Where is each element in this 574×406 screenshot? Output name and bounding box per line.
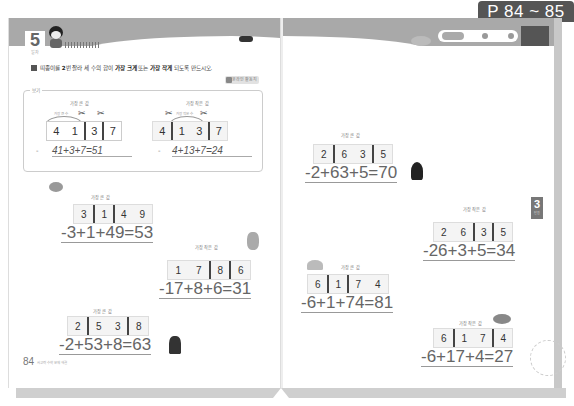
example-smallest-equation: 4+13+7=24 [172, 145, 252, 157]
scissors-icon: ✂ [200, 109, 208, 118]
problem-title: 가장 작은 값 [459, 320, 482, 326]
answer-text: -2+63+5=70 [305, 164, 397, 181]
number-strip: 2 6 3 5 [313, 144, 393, 164]
number-strip: 6 1 7 4 [433, 328, 513, 348]
number-strip: 1 7 8 6 [167, 260, 251, 280]
cat-mascot-icon [49, 182, 63, 192]
left-page: 5 일차 띠종이를 2번 잘라 세 수의 합이 가장 크게 또는 가장 작게 되… [8, 18, 280, 388]
footer-text: 사고력 수학 문제 해결 [37, 360, 67, 365]
answer-text: -2+53+8=63 [59, 336, 151, 353]
example-smallest-title: 가장 작은 값 [186, 100, 209, 106]
chapter-tab[interactable]: 3 단원 [531, 197, 543, 219]
answer-text: -3+1+49=53 [61, 224, 153, 241]
answer-text: -26+3+5=34 [423, 242, 515, 259]
page-number: 84 [23, 356, 34, 367]
problem-title: 가장 큰 값 [341, 264, 360, 270]
progress-dot [508, 33, 514, 39]
mouse-mascot-icon [247, 232, 259, 250]
progress-dot [482, 33, 488, 39]
fence-icon [65, 42, 99, 48]
car-icon [239, 36, 253, 42]
dog-mascot-icon [169, 336, 181, 354]
example-label: 보기 [30, 87, 42, 93]
right-page: 가장 큰 값 2 6 3 5 -2+63+5=70 가장 작은 값 2 6 3 … [283, 18, 562, 388]
kid-character-icon [47, 26, 65, 48]
question-icon [31, 65, 37, 71]
scissors-icon: ✂ [165, 109, 173, 118]
answer-text: -6+1+74=81 [301, 294, 393, 311]
scissors-icon: ✂ [97, 109, 105, 118]
problem-title: 가장 큰 값 [93, 308, 112, 314]
number-strip: 3 1 4 9 [73, 204, 153, 224]
progress-pill [438, 30, 518, 42]
example-largest-strip: 4 1 3 7 [46, 121, 122, 141]
number-strip: 2 5 3 8 [67, 316, 149, 336]
number-strip: 6 1 7 4 [307, 274, 389, 294]
unit-tag: 5 일차 [25, 31, 45, 55]
worksheet-icon [226, 77, 232, 83]
answer-text: -17+8+6=31 [159, 280, 251, 297]
problem-title: 가장 큰 값 [91, 194, 110, 200]
tent-mascot-icon [307, 260, 323, 270]
tree-icon [411, 36, 431, 46]
example-largest-equation: 41+3+7=51 [52, 145, 132, 157]
scissors-icon: ✂ [78, 109, 86, 118]
example-box: 보기 가장 큰 값 가장 큰 수 ✂ ✂ 4 1 3 7 - 41+3+7=51… [23, 90, 263, 172]
textbook-spread: 5 일차 띠종이를 2번 잘라 세 수의 합이 가장 크게 또는 가장 작게 되… [8, 18, 566, 398]
progress-dots [442, 32, 464, 40]
raccoon-mascot-icon [493, 314, 511, 324]
problem-title: 가장 작은 값 [463, 206, 486, 212]
problem-title: 가장 작은 값 [195, 244, 218, 250]
page-stack-edge [16, 388, 566, 398]
example-largest-title: 가장 큰 값 [70, 100, 89, 106]
penguin-mascot-icon [411, 162, 423, 180]
answer-text: -6+17+4=27 [421, 348, 513, 365]
online-worksheet-button[interactable]: 온라인 활동지 [225, 76, 259, 84]
building-icon [521, 26, 549, 46]
problem-title: 가장 큰 값 [341, 132, 360, 138]
number-strip: 2 6 3 5 [433, 222, 513, 242]
problem-instruction: 띠종이를 2번 잘라 세 수의 합이 가장 크게 또는 가장 작게 되도록 만드… [31, 64, 212, 72]
example-smallest-strip: 4 1 3 7 [152, 121, 228, 141]
watermark-stamp-icon [530, 340, 566, 376]
